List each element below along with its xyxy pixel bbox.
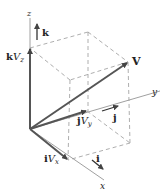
kVz-label: kVz <box>6 51 24 64</box>
j-label: j <box>112 112 117 123</box>
vector-components-diagram: z y x k j i V kVz jVy iVx <box>0 0 167 196</box>
z-axis-label: z <box>26 9 32 18</box>
x-axis <box>30 129 104 180</box>
iVx-label: iVx <box>44 153 59 166</box>
y-axis-label: y <box>151 87 158 97</box>
j-unit-vector <box>102 106 118 111</box>
jVy-label: jVy <box>76 115 93 128</box>
x-axis-label: x <box>100 181 105 191</box>
i-label: i <box>96 153 100 164</box>
V-label: V <box>131 55 141 68</box>
k-label: k <box>42 27 50 38</box>
